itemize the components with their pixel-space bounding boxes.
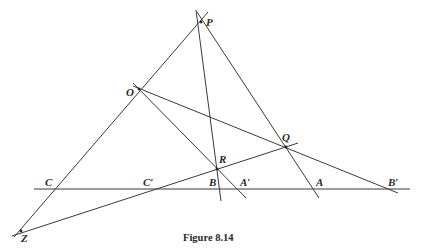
- figure-caption: Figure 8.14: [183, 232, 234, 243]
- label-Q: Q: [282, 131, 290, 143]
- label-B-prime: B′: [387, 176, 398, 188]
- label-R: R: [218, 153, 226, 165]
- label-B: B: [208, 176, 216, 188]
- label-P: P: [206, 16, 213, 28]
- label-Z: Z: [20, 232, 28, 244]
- label-C-prime: C′: [143, 176, 153, 188]
- label-A: A: [315, 176, 323, 188]
- label-O: O: [126, 86, 134, 98]
- label-A-prime: A′: [239, 176, 250, 188]
- point-Q: [285, 146, 288, 149]
- label-C: C: [45, 176, 53, 188]
- point-O: [138, 88, 141, 91]
- line-OB-prime: [133, 86, 398, 193]
- point-P: [200, 21, 203, 24]
- point-labels: P O Q R C C′ B A′ A B′ Z: [20, 16, 398, 244]
- line-ZP: [14, 12, 208, 237]
- point-R: [216, 168, 219, 171]
- point-markers: [20, 21, 288, 233]
- projective-geometry-figure: P O Q R C C′ B A′ A B′ Z Figure 8.14: [0, 0, 421, 251]
- construction-lines: [12, 10, 410, 237]
